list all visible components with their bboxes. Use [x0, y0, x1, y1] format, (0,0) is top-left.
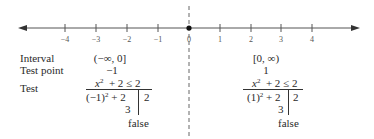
test-label: Test [20, 82, 38, 94]
right-test-rule [243, 89, 303, 90]
left-evaluated: 3 [125, 103, 131, 115]
left-result: false [128, 117, 149, 129]
tick-label: −1 [154, 35, 163, 44]
left-arrow-icon [18, 25, 27, 31]
left-test-point: −1 [106, 64, 118, 76]
right-interval: [0, ∞) [253, 52, 279, 64]
right-inequality: x2 + 2 ≤ 2 [252, 77, 297, 89]
left-substitution: (−1)2 + 2 [86, 91, 126, 103]
left-test-rule [86, 89, 152, 90]
tick-label: 2 [249, 35, 253, 44]
tick-label: −2 [123, 35, 132, 44]
right-test-divider [288, 90, 289, 115]
right-evaluated: 3 [278, 103, 284, 115]
test-point-label: Test point [20, 64, 64, 76]
left-inequality: x2 + 2 ≤ 2 [95, 77, 140, 89]
closed-point-icon [186, 25, 191, 30]
right-test-point: 1 [263, 64, 269, 76]
interval-label: Interval [20, 52, 54, 64]
left-test-divider [138, 90, 139, 115]
right-arrow-icon [351, 25, 360, 31]
tick-label: 3 [279, 35, 283, 44]
right-substitution: (1)2 + 2 [247, 91, 281, 103]
left-rhs: 2 [144, 91, 150, 103]
tick-label: −4 [61, 35, 70, 44]
tick-label: 0 [187, 35, 191, 44]
right-rhs: 2 [293, 91, 299, 103]
tick-label: 1 [218, 35, 222, 44]
left-interval: (−∞, 0] [94, 52, 126, 64]
right-result: false [278, 117, 299, 129]
tick-label: 4 [310, 35, 314, 44]
tick-label: −3 [92, 35, 101, 44]
